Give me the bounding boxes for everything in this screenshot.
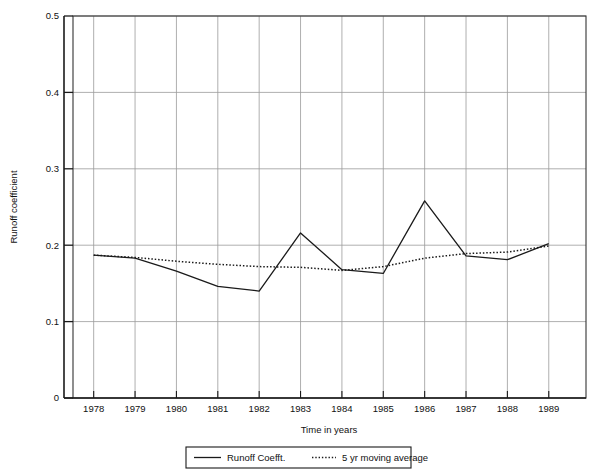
x-tick-label: 1985	[373, 403, 394, 414]
x-tick-label: 1988	[497, 403, 518, 414]
runoff-coefficient-chart: 00.10.20.30.40.5 19781979198019811982198…	[0, 0, 597, 473]
x-tick-label: 1987	[455, 403, 476, 414]
x-tick-label: 1989	[538, 403, 559, 414]
plot-background	[73, 16, 586, 398]
chart-svg: 00.10.20.30.40.5 19781979198019811982198…	[0, 0, 597, 473]
x-tick-label: 1984	[331, 403, 352, 414]
y-tick-label: 0.2	[46, 240, 59, 251]
x-axis-title: Time in years	[301, 424, 358, 435]
y-tick-label: 0.3	[46, 163, 59, 174]
x-tick-label: 1980	[166, 403, 187, 414]
y-tick-label: 0.4	[46, 87, 59, 98]
x-tick-label: 1986	[414, 403, 435, 414]
legend-box: Runoff Coefft. 5 yr moving average	[186, 447, 428, 468]
y-tick-label: 0.5	[46, 10, 59, 21]
y-axis-ticks	[64, 16, 73, 398]
y-tick-label: 0.1	[46, 316, 59, 327]
y-tick-label: 0	[54, 392, 59, 403]
legend-label-moving-average: 5 yr moving average	[342, 452, 428, 463]
x-tick-label: 1981	[207, 403, 228, 414]
x-tick-label: 1979	[124, 403, 145, 414]
y-axis-title: Runoff coefficient	[8, 170, 19, 243]
x-tick-label: 1983	[290, 403, 311, 414]
x-tick-label: 1978	[83, 403, 104, 414]
x-axis-tick-labels: 1978197919801981198219831984198519861987…	[83, 403, 559, 414]
x-tick-label: 1982	[249, 403, 270, 414]
y-axis-tick-labels: 00.10.20.30.40.5	[46, 10, 59, 403]
legend-label-runoff-coefft: Runoff Coefft.	[227, 452, 285, 463]
